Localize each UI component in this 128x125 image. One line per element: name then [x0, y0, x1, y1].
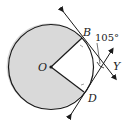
angle-label: 105° [95, 32, 119, 43]
angle-pointer [97, 43, 100, 64]
label-Y: Y [113, 60, 122, 73]
tangent-line-D [70, 50, 112, 116]
label-O: O [38, 61, 47, 74]
right-angle-mark-B [80, 45, 83, 47]
right-angle-mark-D [81, 84, 84, 85]
center-point-O [49, 65, 52, 68]
geometry-diagram: O B D Y 105° [0, 0, 128, 125]
label-B: B [82, 26, 91, 39]
label-D: D [87, 92, 97, 105]
